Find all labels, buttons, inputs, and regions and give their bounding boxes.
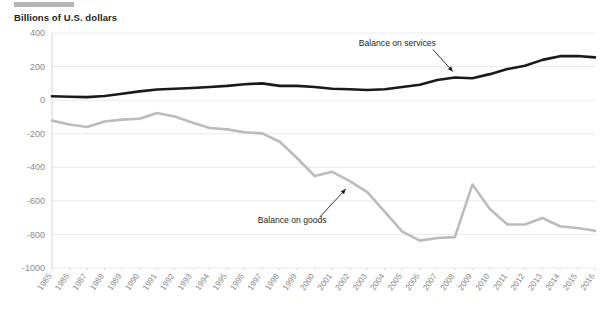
svg-text:1990: 1990 — [123, 272, 141, 292]
svg-text:0: 0 — [40, 95, 45, 105]
svg-text:2006: 2006 — [404, 272, 422, 292]
svg-text:2005: 2005 — [386, 272, 404, 292]
svg-text:400: 400 — [30, 28, 45, 38]
svg-text:2002: 2002 — [334, 272, 352, 292]
svg-text:2014: 2014 — [544, 272, 562, 292]
svg-text:2010: 2010 — [474, 272, 492, 292]
svg-text:2000: 2000 — [299, 272, 317, 292]
svg-text:-400: -400 — [27, 162, 45, 172]
svg-text:2003: 2003 — [351, 272, 369, 292]
svg-text:1989: 1989 — [106, 272, 124, 292]
svg-text:1995: 1995 — [211, 272, 229, 292]
svg-text:2013: 2013 — [526, 272, 544, 292]
svg-text:1999: 1999 — [281, 272, 299, 292]
svg-text:1987: 1987 — [71, 272, 89, 292]
svg-text:2012: 2012 — [509, 272, 527, 292]
svg-text:1997: 1997 — [246, 272, 264, 292]
svg-text:2009: 2009 — [456, 272, 474, 292]
svg-text:1998: 1998 — [264, 272, 282, 292]
svg-text:-600: -600 — [27, 196, 45, 206]
svg-text:2016: 2016 — [579, 272, 597, 292]
svg-text:1991: 1991 — [141, 272, 159, 292]
x-axis-ticks: 1985198619871988198919901991199219931994… — [36, 268, 597, 292]
svg-text:2011: 2011 — [492, 272, 510, 292]
svg-text:-1000: -1000 — [22, 263, 45, 273]
svg-text:2015: 2015 — [561, 272, 579, 292]
svg-text:Balance on services: Balance on services — [359, 38, 436, 48]
svg-text:1996: 1996 — [228, 272, 246, 292]
chart-figure: Billions of U.S. dollars 4002000-200-400… — [0, 0, 612, 316]
y-axis-ticks: 4002000-200-400-600-800-1000 — [22, 28, 45, 273]
svg-text:1994: 1994 — [193, 272, 211, 292]
svg-text:2007: 2007 — [421, 272, 439, 292]
svg-text:200: 200 — [30, 62, 45, 72]
chart-plot-area: 4002000-200-400-600-800-1000 19851986198… — [0, 0, 612, 316]
svg-text:1986: 1986 — [53, 272, 71, 292]
svg-text:2001: 2001 — [316, 272, 334, 292]
svg-text:1993: 1993 — [176, 272, 194, 292]
svg-text:1992: 1992 — [158, 272, 176, 292]
svg-text:Balance on goods: Balance on goods — [258, 215, 327, 225]
svg-text:2008: 2008 — [439, 272, 457, 292]
svg-text:1988: 1988 — [88, 272, 106, 292]
svg-text:1985: 1985 — [36, 272, 54, 292]
svg-text:2004: 2004 — [369, 272, 387, 292]
svg-text:-200: -200 — [27, 129, 45, 139]
svg-text:-800: -800 — [27, 230, 45, 240]
